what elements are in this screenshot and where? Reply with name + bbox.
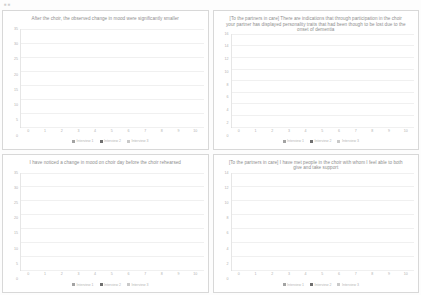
- chart-title: I have noticed a change in mood on choir…: [7, 158, 204, 172]
- legend-label: Interview 2: [104, 283, 121, 287]
- bar-group: [54, 173, 71, 271]
- legend-label: Interview 2: [315, 283, 332, 287]
- y-axis-tick-label: 20: [14, 73, 18, 77]
- legend-item[interactable]: Interview 3: [127, 283, 148, 287]
- bar-group: [21, 173, 38, 271]
- bar-group: [170, 29, 187, 127]
- y-axis-tick-label: 6: [227, 95, 229, 99]
- plot-column: 012345678910: [20, 173, 204, 280]
- bar-group: [298, 173, 315, 271]
- x-axis-tick-label: 8: [364, 129, 381, 136]
- bar-group: [314, 173, 331, 271]
- bar-group: [38, 29, 55, 127]
- chart-legend: Interview 1Interview 2Interview 3: [218, 279, 415, 290]
- legend-item[interactable]: Interview 2: [310, 139, 331, 143]
- x-axis: 012345678910: [231, 127, 415, 136]
- plot-canvas: [20, 29, 204, 127]
- bar-group: [331, 34, 348, 127]
- legend-label: Interview 1: [77, 283, 94, 287]
- legend-item[interactable]: Interview 2: [100, 139, 121, 143]
- bar-group: [104, 29, 121, 127]
- x-axis-tick-label: 4: [297, 272, 314, 279]
- legend-swatch-icon: [127, 140, 130, 143]
- bar-group: [381, 34, 398, 127]
- legend-item[interactable]: Interview 1: [72, 283, 93, 287]
- gridline: [232, 270, 415, 271]
- bar-group: [71, 29, 88, 127]
- plot-area: 0246810121416 012345678910: [218, 34, 415, 136]
- y-axis-tick-label: 35: [14, 171, 18, 175]
- bar-group: [154, 29, 171, 127]
- x-axis-tick-label: 3: [281, 272, 298, 279]
- y-axis-tick-label: 2: [227, 121, 229, 125]
- legend-label: Interview 1: [287, 139, 304, 143]
- x-axis-tick-label: 8: [364, 272, 381, 279]
- bar-group: [348, 34, 365, 127]
- x-axis-tick-label: 6: [331, 272, 348, 279]
- legend-label: Interview 1: [77, 139, 94, 143]
- plot-canvas: [231, 34, 415, 127]
- x-axis-tick-label: 1: [247, 129, 264, 136]
- legend-item[interactable]: Interview 3: [127, 139, 148, 143]
- chart-panel-1: After the choir, the observed change in …: [2, 10, 209, 150]
- x-axis-tick-label: 9: [381, 129, 398, 136]
- y-axis-tick-label: 12: [225, 57, 229, 61]
- legend-item[interactable]: Interview 2: [100, 283, 121, 287]
- y-axis-tick-label: 5: [16, 118, 18, 122]
- y-axis-tick-label: 8: [227, 216, 229, 220]
- y-axis-tick-label: 0: [16, 134, 18, 138]
- x-axis-tick-label: 9: [170, 272, 187, 279]
- y-axis-tick-label: 20: [14, 216, 18, 220]
- bar-group: [381, 173, 398, 271]
- chart-legend: Interview 1Interview 2Interview 3: [7, 136, 204, 147]
- legend-item[interactable]: Interview 2: [310, 283, 331, 287]
- bar-group: [121, 173, 138, 271]
- y-axis-tick-label: 0: [16, 277, 18, 281]
- y-axis-tick-label: 14: [225, 171, 229, 175]
- legend-item[interactable]: Interview 3: [337, 283, 358, 287]
- legend-item[interactable]: Interview 1: [283, 139, 304, 143]
- x-axis-tick-label: 2: [53, 129, 70, 136]
- legend-item[interactable]: Interview 1: [72, 139, 93, 143]
- x-axis-tick-label: 4: [297, 129, 314, 136]
- legend-item[interactable]: Interview 3: [337, 139, 358, 143]
- chart-4: [To the partners in care] I have met peo…: [214, 155, 419, 293]
- legend-item[interactable]: Interview 1: [283, 283, 304, 287]
- y-axis-tick-label: 15: [14, 231, 18, 235]
- chart-legend: Interview 1Interview 2Interview 3: [7, 279, 204, 290]
- bar-group: [281, 34, 298, 127]
- x-axis-tick-label: 10: [397, 129, 414, 136]
- bar-group: [21, 29, 38, 127]
- plot-area: 02468101214 012345678910: [218, 173, 415, 280]
- bar-group: [54, 29, 71, 127]
- x-axis-tick-label: 1: [37, 129, 54, 136]
- x-axis-tick-label: 5: [103, 129, 120, 136]
- x-axis-tick-label: 0: [231, 129, 248, 136]
- y-axis-tick-label: 10: [14, 103, 18, 107]
- legend-swatch-icon: [283, 283, 286, 286]
- x-axis-tick-label: 1: [37, 272, 54, 279]
- bar-group: [364, 34, 381, 127]
- x-axis-tick-label: 7: [347, 272, 364, 279]
- bar-group: [121, 29, 138, 127]
- bar-group: [170, 173, 187, 271]
- x-axis-tick-label: 4: [87, 272, 104, 279]
- plot-area: 05101520253035 012345678910: [7, 29, 204, 136]
- y-axis-tick-label: 25: [14, 57, 18, 61]
- legend-label: Interview 1: [287, 283, 304, 287]
- bar-group: [298, 34, 315, 127]
- y-axis: 02468101214: [218, 173, 231, 280]
- x-axis-tick-label: 6: [120, 129, 137, 136]
- y-axis: 05101520253035: [7, 173, 20, 280]
- x-axis-tick-label: 0: [20, 129, 37, 136]
- y-axis-tick-label: 35: [14, 27, 18, 31]
- y-axis-tick-label: 15: [14, 88, 18, 92]
- legend-swatch-icon: [283, 140, 286, 143]
- x-axis-tick-label: 2: [264, 272, 281, 279]
- bar-group: [364, 173, 381, 271]
- y-axis-tick-label: 4: [227, 108, 229, 112]
- chart-legend: Interview 1Interview 2Interview 3: [218, 136, 415, 147]
- bar-group: [265, 34, 282, 127]
- chart-panel-4: [To the partners in care] I have met peo…: [213, 154, 420, 294]
- y-axis-tick-label: 0: [227, 134, 229, 138]
